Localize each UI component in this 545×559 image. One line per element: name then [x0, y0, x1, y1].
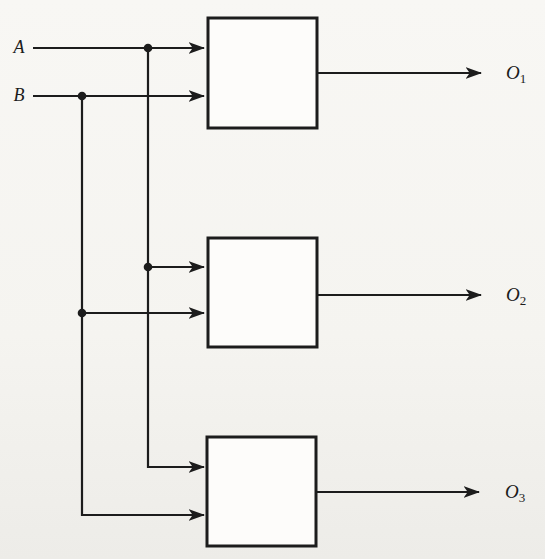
junction-dot-b-top [78, 92, 87, 101]
diagram-page: A B O1 O2 O3 [0, 0, 545, 559]
junction-dot-b-mid [78, 309, 87, 318]
output-label-o3: O3 [505, 481, 525, 505]
output-label-o1-base: O [506, 62, 520, 83]
output-label-o3-base: O [505, 481, 519, 502]
logic-block-3 [207, 437, 316, 546]
output-label-o1-sub: 1 [520, 71, 527, 86]
output-label-o2: O2 [506, 284, 526, 308]
output-label-o2-sub: 2 [520, 293, 527, 308]
output-label-o2-base: O [506, 284, 520, 305]
wire-b-branch-to-block3 [82, 96, 204, 515]
logic-block-1 [208, 18, 317, 128]
logic-block-diagram: A B O1 O2 O3 [0, 0, 545, 559]
wire-a-branch-to-block3 [148, 48, 204, 467]
output-label-o3-sub: 3 [519, 490, 526, 505]
junction-dot-a-mid [144, 263, 153, 272]
input-label-a: A [13, 37, 26, 57]
logic-block-2 [208, 238, 317, 347]
junction-dot-a-top [144, 44, 153, 53]
input-label-b: B [14, 85, 25, 105]
output-label-o1: O1 [506, 62, 526, 86]
